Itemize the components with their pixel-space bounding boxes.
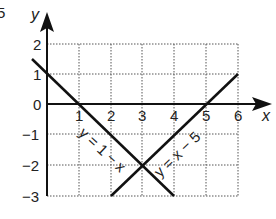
graph-figure: 5 y x 2 1 0 −1 −2 −3 1 2 3 4 5 6: [0, 0, 276, 219]
x-tick-1: 1: [75, 107, 83, 124]
y-tick-2: 2: [33, 36, 41, 53]
x-tick-3: 3: [138, 107, 146, 124]
x-tick-6: 6: [234, 107, 242, 124]
x-axis-label: x: [261, 107, 271, 124]
y-axis-label: y: [30, 6, 40, 23]
x-tick-5: 5: [202, 107, 210, 124]
y-tick-minus-2: −2: [22, 157, 39, 174]
line-y-equals-1-minus-x: [32, 59, 174, 196]
y-tick-1: 1: [33, 66, 41, 83]
y-tick-0: 0: [33, 96, 41, 113]
x-tick-4: 4: [170, 107, 178, 124]
y-tick-labels: 2 1 0 −1 −2 −3: [22, 36, 41, 205]
equation-label-2: y = x − 5: [150, 128, 203, 180]
y-tick-minus-3: −3: [22, 188, 39, 205]
x-tick-2: 2: [107, 107, 115, 124]
y-tick-minus-1: −1: [22, 126, 39, 143]
x-tick-labels: 1 2 3 4 5 6: [75, 107, 242, 124]
equation-label-1: y = 1 − x: [76, 124, 130, 176]
problem-number: 5: [0, 4, 5, 21]
